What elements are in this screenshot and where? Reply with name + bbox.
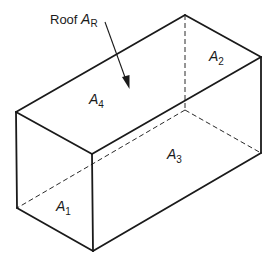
edge-top-back-right (185, 15, 261, 57)
roof-label-subscript: R (90, 18, 97, 29)
face-label-a3-subscript: 3 (176, 154, 182, 165)
edge-top-front-left (16, 112, 92, 154)
face-label-a4: A4 (88, 91, 104, 110)
roof-label-prefix: Roof (50, 12, 81, 27)
roof-arrow-icon (105, 22, 130, 89)
face-label-a2-symbol: A (208, 48, 218, 64)
edge-vertical-front (92, 154, 93, 251)
edge-bottom-left (17, 208, 93, 251)
hidden-edge-back-bottom-left (17, 110, 185, 208)
face-label-a1-symbol: A (55, 198, 65, 214)
face-label-a2-subscript: 2 (218, 56, 224, 67)
face-label-a3-symbol: A (166, 146, 176, 162)
face-label-a1-subscript: 1 (65, 206, 71, 217)
face-label-a4-subscript: 4 (98, 99, 104, 110)
face-label-a4-symbol: A (88, 91, 98, 107)
edge-top-front-right (92, 57, 261, 154)
roof-arrow-head (122, 75, 130, 89)
box-diagram-svg: Roof AR A4 A2 A3 A1 (0, 0, 275, 268)
box-diagram: Roof AR A4 A2 A3 A1 (0, 0, 275, 268)
face-label-a3: A3 (166, 146, 182, 165)
hidden-edge-back-bottom-right (185, 110, 261, 153)
edge-vertical-left (16, 112, 17, 208)
edge-bottom-right (93, 153, 261, 251)
roof-label-symbol: A (80, 11, 90, 27)
edge-top-back-left (16, 15, 185, 112)
face-label-a1: A1 (55, 198, 71, 217)
hidden-edges (17, 15, 261, 208)
face-label-a2: A2 (208, 48, 224, 67)
roof-label: Roof AR (50, 11, 98, 29)
visible-edges (16, 15, 261, 251)
